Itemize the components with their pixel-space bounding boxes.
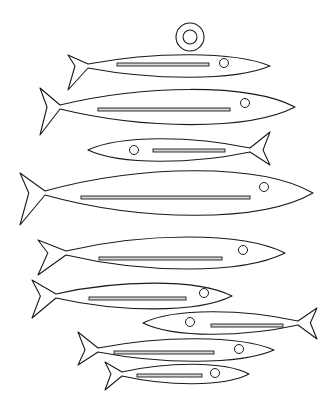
fish-1 [68,55,270,90]
hanger-ring-hole [183,30,197,44]
fish-5 [38,237,285,275]
fish-eye-icon [211,369,220,378]
fish-body-outline [40,88,295,135]
fish-body-outline [78,332,274,365]
fish-3 [88,132,270,165]
fish-eye-icon [220,59,229,68]
fish-body-outline [143,308,317,339]
fish-7 [143,308,317,339]
fish-eye-icon [130,146,139,155]
fish-slot [137,374,202,377]
fish-slot [98,108,230,111]
fish-slot [114,351,214,354]
fish-8 [78,332,274,365]
hanger-ring [176,23,204,51]
fish-9 [105,362,249,390]
fish-body-outline [88,132,270,165]
fish-slot [89,297,186,300]
fish-school-drawing [0,0,334,403]
fish-eye-icon [260,183,269,192]
fish-slot [81,196,250,199]
fish-eye-icon [186,318,195,327]
fish-eye-icon [200,289,209,298]
fish-2 [40,88,295,135]
fish-slot [211,324,283,327]
fish-eye-icon [235,345,244,354]
fish-slot [117,63,209,66]
fish-illustration [0,0,334,403]
fish-4 [20,171,313,225]
fish-eye-icon [241,99,250,108]
fish-eye-icon [239,246,248,255]
fish-layer [20,55,317,390]
fish-slot [153,149,225,152]
fish-body-outline [68,55,270,90]
fish-slot [99,257,222,260]
fish-body-outline [38,237,285,275]
